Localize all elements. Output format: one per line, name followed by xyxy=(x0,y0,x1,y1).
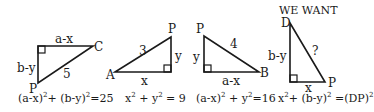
hypotenuse-label: ? xyxy=(312,44,318,58)
hypotenuse-label: 5 xyxy=(63,67,71,81)
side-label: b-y xyxy=(17,61,36,75)
side-label: y xyxy=(174,49,182,63)
vertex-label: P xyxy=(168,22,176,36)
triangle-2: 3 y x A P x2 + y2 = 9 xyxy=(105,22,186,105)
side-label: a-x xyxy=(222,74,240,88)
side-label: a-x xyxy=(55,32,73,46)
vertex-label: P xyxy=(328,76,336,90)
triangle-1: a-x b-y 5 C P (a-x)2+ (b-y)2=25 xyxy=(17,32,114,105)
vertex-label: B xyxy=(260,66,269,80)
right-angle-marker xyxy=(290,75,297,82)
triangle-3: P y 4 B a-x (a-x)2 + y2=16 xyxy=(192,22,276,105)
equation: x2+ (b-y)2 =(DP)2 xyxy=(278,91,373,105)
vertex-label: D xyxy=(281,16,291,30)
side-label: b-y xyxy=(268,49,287,63)
right-angle-marker xyxy=(164,65,171,72)
equation: x2 + y2 = 9 xyxy=(125,91,186,105)
hypotenuse-label: 4 xyxy=(230,37,238,51)
triangle-4-shape xyxy=(290,23,325,82)
right-angle-marker xyxy=(38,46,45,53)
equation: (a-x)2+ (b-y)2=25 xyxy=(18,91,114,105)
diagram-canvas: a-x b-y 5 C P (a-x)2+ (b-y)2=25 3 y x A … xyxy=(0,0,374,112)
triangle-4: WE WANT D b-y ? P x x2+ (b-y)2 =(DP)2 xyxy=(268,4,373,105)
right-angle-marker xyxy=(204,65,211,72)
equation: (a-x)2 + y2=16 xyxy=(196,91,276,105)
hypotenuse-label: 3 xyxy=(139,44,147,58)
vertex-label: P xyxy=(196,22,204,36)
side-label: x xyxy=(141,74,148,88)
vertex-label: A xyxy=(105,68,115,82)
side-label: y xyxy=(192,50,200,64)
vertex-label: C xyxy=(94,40,103,54)
